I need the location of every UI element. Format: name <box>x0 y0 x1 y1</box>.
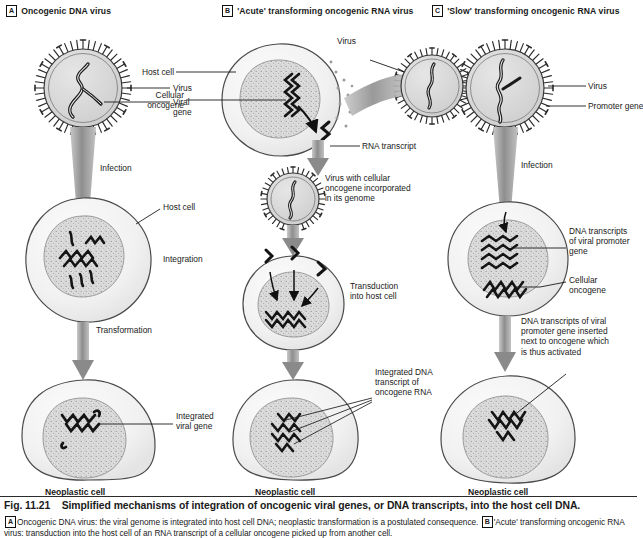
label-c-inserted-note: DNA transcripts of viral promoter gene i… <box>521 316 609 357</box>
figure-caption-title: Fig. 11.21 Simplified mechanisms of inte… <box>4 500 580 511</box>
panel-c-arrow-down <box>494 316 516 372</box>
panel-c-neoplastic-cell <box>441 374 575 483</box>
label-b-host-cell: Host cell <box>118 67 174 77</box>
panel-marker-c: C <box>432 5 443 17</box>
panel-b-neoplastic-cell <box>233 380 372 480</box>
panel-title-b: 'Acute' transforming oncogenic RNA virus <box>237 6 413 16</box>
figure-title-text: Simplified mechanisms of integration of … <box>62 500 581 511</box>
label-b-transduction: Transduction into host cell <box>350 281 398 301</box>
panel-c-virus-particle <box>466 49 586 127</box>
label-c-cellular-oncogene: Cellular oncogene <box>569 275 606 295</box>
label-b-virus-with-oncogene: Virus with cellular oncogene incorporate… <box>325 173 411 204</box>
figure-caption: Fig. 11.21 Simplified mechanisms of inte… <box>0 496 637 538</box>
label-b-rna-transcript: RNA transcript <box>362 141 416 151</box>
label-c-promoter-gene: Promoter gene <box>588 101 643 111</box>
panel-b-budding-wedge <box>344 74 408 116</box>
label-b-integrated-dna: Integrated DNA transcript of oncogene RN… <box>375 367 433 398</box>
label-c-virus: Virus <box>588 81 607 91</box>
panel-header-c: C 'Slow' transforming oncogenic RNA viru… <box>432 5 620 17</box>
panel-marker-b: B <box>222 5 233 17</box>
caption-marker-a: A <box>5 516 16 528</box>
label-a-integration: Integration <box>163 254 203 264</box>
panel-header-b: B 'Acute' transforming oncogenic RNA vir… <box>222 5 413 17</box>
caption-marker-b: B <box>482 516 493 528</box>
label-a-host-cell: Host cell <box>163 202 195 212</box>
label-b-cellular-oncogene: Cellular oncogene <box>118 90 184 110</box>
figure-caption-body: AOncogenic DNA virus: the viral genome i… <box>4 516 634 538</box>
label-c-dna-transcripts: DNA transcripts of viral promoter gene <box>569 226 630 257</box>
panel-b-arrow-3 <box>282 350 304 380</box>
label-a-integrated-gene: Integrated viral gene <box>176 411 214 431</box>
caption-text-a: Oncogenic DNA virus: the viral genome is… <box>17 517 478 527</box>
panel-marker-a: A <box>6 5 17 17</box>
panel-b-arrow-2 <box>282 225 304 256</box>
panel-a-neoplastic-cell <box>22 380 173 480</box>
panel-a-host-cell <box>26 198 151 322</box>
panel-b-virus-with-oncogene <box>267 173 319 225</box>
panel-b-host-cell <box>176 44 360 156</box>
panel-header-a: A Oncogenic DNA virus <box>6 5 111 17</box>
panel-c-host-cell <box>448 202 568 316</box>
label-a-transformation: Transformation <box>96 325 152 335</box>
panel-b-transduction-cell <box>243 247 344 350</box>
panel-a-transformation-arrow <box>72 322 94 380</box>
panel-title-c: 'Slow' transforming oncogenic RNA virus <box>447 6 619 16</box>
panel-a-virus-particle <box>44 49 122 127</box>
label-b-virus: Virus <box>337 36 356 46</box>
label-c-infection: Infection <box>521 160 553 170</box>
panel-title-a: Oncogenic DNA virus <box>21 6 111 16</box>
figure-number: Fig. 11.21 <box>4 500 50 511</box>
label-a-infection: Infection <box>100 163 132 173</box>
